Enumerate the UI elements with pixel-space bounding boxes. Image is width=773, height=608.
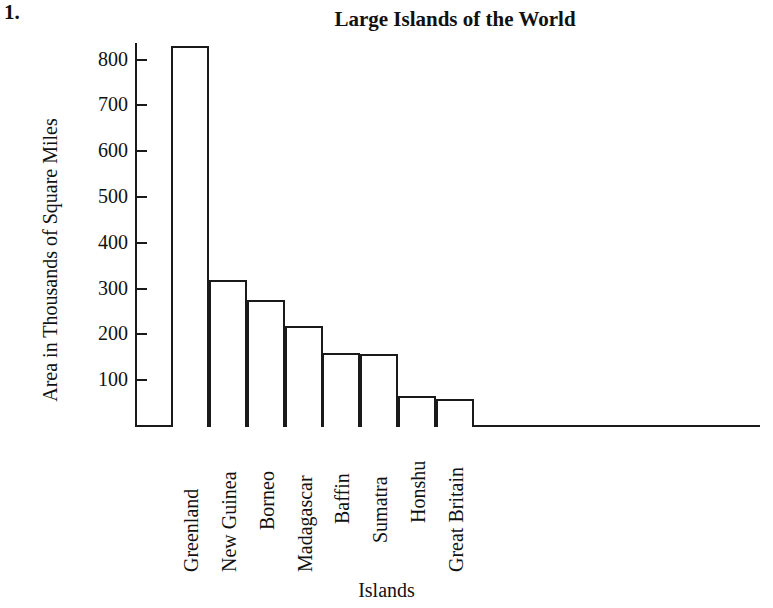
y-tick-mark — [136, 196, 147, 198]
plot-area: 100200300400500600700800 GreenlandNew Gu… — [0, 0, 773, 608]
x-tick-label: Honshu — [405, 353, 431, 523]
y-axis-line — [135, 43, 137, 427]
y-tick-mark — [136, 333, 147, 335]
y-tick-label: 600 — [68, 140, 128, 160]
y-tick-mark — [136, 150, 147, 152]
x-tick-label: New Guinea — [216, 402, 242, 572]
y-tick-label-text: 200 — [68, 323, 128, 343]
y-tick-label: 400 — [68, 232, 128, 252]
x-tick-label: Greenland — [178, 402, 204, 572]
y-tick-label-text: 600 — [68, 140, 128, 160]
y-tick-mark — [136, 59, 147, 61]
y-tick-mark — [136, 104, 147, 106]
x-tick-label: Sumatra — [367, 373, 393, 543]
y-tick-label-text: 400 — [68, 232, 128, 252]
y-tick-label: 300 — [68, 278, 128, 298]
x-axis-title: Islands — [0, 578, 773, 602]
y-tick-label: 200 — [68, 323, 128, 343]
y-tick-label-text: 800 — [68, 49, 128, 69]
bar — [171, 46, 209, 427]
x-tick-label: Borneo — [254, 360, 280, 530]
y-tick-label-text: 300 — [68, 278, 128, 298]
y-tick-label: 100 — [68, 369, 128, 389]
chart-figure: 1. Large Islands of the World Area in Th… — [0, 0, 773, 608]
x-tick-label: Great Britain — [443, 402, 469, 572]
y-tick-mark — [136, 242, 147, 244]
y-tick-label-text: 100 — [68, 369, 128, 389]
y-tick-label: 800 — [68, 49, 128, 69]
y-tick-label-text: 700 — [68, 94, 128, 114]
x-tick-label: Madagascar — [292, 402, 318, 572]
y-tick-mark — [136, 379, 147, 381]
y-tick-mark — [136, 288, 147, 290]
y-tick-label-text: 500 — [68, 186, 128, 206]
y-tick-label: 700 — [68, 94, 128, 114]
x-tick-label: Baffin — [329, 354, 355, 524]
y-tick-label: 500 — [68, 186, 128, 206]
